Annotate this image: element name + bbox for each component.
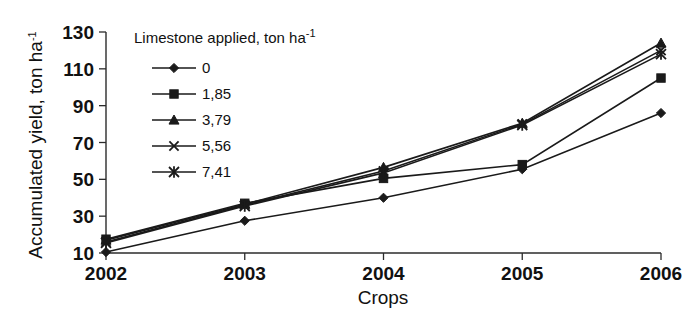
legend-title-superscript: -1	[306, 27, 316, 39]
y-axis-title-text: Accumulated yield, ton ha	[25, 41, 46, 259]
data-point-square-marker	[657, 74, 665, 82]
x-axis-title: Crops	[358, 287, 409, 308]
legend-item-label: 1,85	[202, 85, 231, 102]
chart-legend: Limestone applied, ton ha-1 01,853,795,5…	[134, 27, 316, 180]
legend-item-label: 5,56	[202, 137, 231, 154]
legend-title-text: Limestone applied, ton ha	[134, 29, 306, 46]
legend-item-label: 0	[202, 59, 210, 76]
data-point-diamond-marker	[240, 216, 249, 225]
series-3-79	[101, 38, 666, 244]
data-point-diamond-marker	[101, 247, 110, 256]
legend-item-label: 3,79	[202, 111, 231, 128]
y-tick-label: 30	[73, 206, 94, 227]
y-tick-label: 50	[73, 169, 94, 190]
data-point-square-marker	[170, 90, 178, 98]
series-1-85	[102, 74, 665, 244]
svg-text:Accumulated yield, ton ha-1: Accumulated yield, ton ha-1	[25, 31, 46, 258]
accumulated-yield-line-chart: Accumulated yield, ton ha-1 103050709011…	[0, 0, 692, 325]
y-tick-label: 70	[73, 133, 94, 154]
x-tick-label: 2002	[85, 263, 127, 284]
x-tick-label: 2004	[362, 263, 405, 284]
y-tick-label: 110	[63, 59, 94, 80]
data-point-diamond-marker	[656, 108, 665, 117]
data-point-diamond-marker	[169, 63, 178, 72]
y-axis-ticks: 1030507090110130	[62, 22, 106, 264]
legend-item-0[interactable]: 0	[152, 59, 210, 76]
legend-item-label: 7,41	[202, 163, 231, 180]
x-tick-label: 2003	[224, 263, 266, 284]
legend-item-5-56[interactable]: 5,56	[152, 137, 231, 154]
y-tick-label: 130	[62, 22, 94, 43]
series-line	[106, 78, 661, 239]
legend-item-3-79[interactable]: 3,79	[152, 111, 231, 128]
y-axis-title: Accumulated yield, ton ha-1	[25, 31, 46, 258]
legend-item-1-85[interactable]: 1,85	[152, 85, 231, 102]
series-line	[106, 43, 661, 240]
x-tick-label: 2006	[640, 263, 682, 284]
x-tick-label: 2005	[501, 263, 544, 284]
y-tick-label: 10	[73, 243, 94, 264]
series-line	[106, 54, 661, 243]
y-axis-title-superscript: -1	[26, 31, 38, 41]
legend-item-7-41[interactable]: 7,41	[152, 163, 231, 180]
data-point-star-marker	[379, 167, 389, 179]
x-axis-ticks: 20022003200420052006	[85, 253, 682, 284]
legend-entries: 01,853,795,567,41	[152, 59, 231, 180]
chart-figure: Accumulated yield, ton ha-1 103050709011…	[0, 0, 692, 325]
legend-title: Limestone applied, ton ha-1	[134, 27, 316, 46]
data-point-square-marker	[518, 160, 526, 168]
y-tick-label: 90	[73, 96, 94, 117]
data-series-group	[101, 38, 666, 257]
data-point-diamond-marker	[379, 193, 388, 202]
